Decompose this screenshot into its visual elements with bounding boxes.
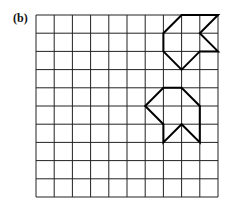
grid-diagram: [0, 0, 231, 203]
shape-original: [163, 15, 218, 70]
shape-transformed: [145, 88, 200, 143]
